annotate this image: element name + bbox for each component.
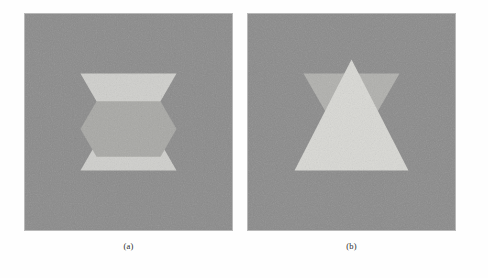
panel-a-wrapper: (a) <box>24 13 233 231</box>
panel-b-illustration <box>248 14 455 230</box>
panel-a-illustration <box>25 14 232 230</box>
caption-b: (b) <box>247 241 456 251</box>
figure-container: (a) (b) <box>0 0 488 278</box>
panel-a-noise <box>25 14 232 230</box>
panel-a <box>24 13 233 231</box>
panel-b-noise <box>248 14 455 230</box>
caption-a: (a) <box>24 241 233 251</box>
panel-b-wrapper: (b) <box>247 13 456 231</box>
panel-b <box>247 13 456 231</box>
